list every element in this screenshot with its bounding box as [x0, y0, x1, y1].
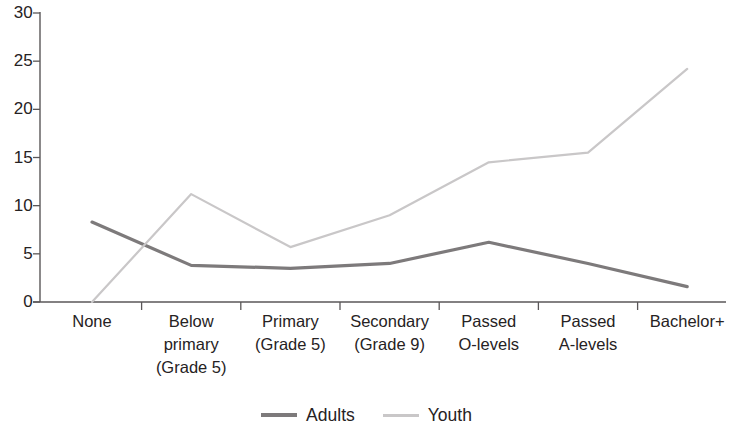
y-axis-tick-label: 10: [3, 197, 33, 214]
y-axis-tick-label: 15: [3, 149, 33, 166]
chart-series: [92, 69, 687, 302]
legend-item-adults: Adults: [261, 405, 355, 425]
y-axis-tick-label: 5: [3, 245, 33, 262]
series-line-adults: [92, 222, 687, 287]
y-axis-tick-labels: 051015202530: [0, 0, 33, 320]
line-chart: 051015202530 NoneBelow primary (Grade 5)…: [0, 0, 733, 431]
legend-swatch-icon: [383, 414, 419, 417]
legend-label: Adults: [306, 405, 355, 425]
y-axis-tick-label: 0: [3, 293, 33, 310]
x-axis-category-labels: NoneBelow primary (Grade 5)Primary (Grad…: [0, 310, 733, 395]
y-axis-tick-label: 25: [3, 52, 33, 69]
legend-label: Youth: [428, 405, 472, 425]
y-axis-tick-label: 30: [3, 4, 33, 21]
legend-item-youth: Youth: [383, 405, 472, 425]
x-axis-category-label: Bachelor+: [627, 310, 733, 333]
legend-swatch-icon: [261, 413, 297, 417]
chart-legend: AdultsYouth: [0, 399, 733, 431]
y-axis-tick-label: 20: [3, 100, 33, 117]
